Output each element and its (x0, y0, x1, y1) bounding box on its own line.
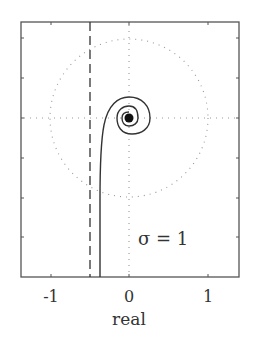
root-locus-plot: -1 0 1 real σ = 1 (0, 0, 254, 341)
plot-frame (21, 22, 239, 277)
x-axis-label: real (112, 309, 146, 329)
spiral-center-point (125, 114, 134, 123)
x-tick-label-neg1: -1 (43, 287, 59, 306)
x-tick-label-0: 0 (124, 287, 134, 306)
x-tick-label-1: 1 (203, 287, 213, 306)
sigma-annotation: σ = 1 (138, 228, 188, 249)
